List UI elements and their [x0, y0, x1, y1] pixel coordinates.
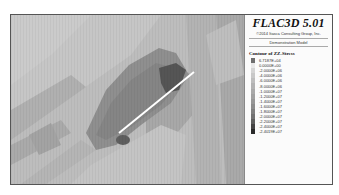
legend-panel: FLAC3D 5.01 ©2014 Itasca Consulting Grou…	[244, 15, 332, 184]
model-name: Demonstration Model	[249, 38, 328, 47]
contour-title: Contour of ZZ-Stress	[249, 51, 332, 57]
legend-value: -2.4019E+07	[259, 129, 282, 134]
legend-entry: -2.4019E+07	[251, 129, 332, 134]
zz-stress-contour-plot	[11, 15, 244, 184]
legend-entries: 6.7187E+040.0000E+00-2.0000E+06-4.0000E+…	[251, 58, 332, 134]
contour-graphic	[11, 15, 244, 184]
app-version-title: FLAC3D 5.01	[245, 17, 332, 30]
copyright-text: ©2014 Itasca Consulting Group, Inc.	[245, 31, 332, 36]
color-swatch	[251, 129, 255, 134]
flac3d-plot-frame: FLAC3D 5.01 ©2014 Itasca Consulting Grou…	[10, 14, 333, 185]
